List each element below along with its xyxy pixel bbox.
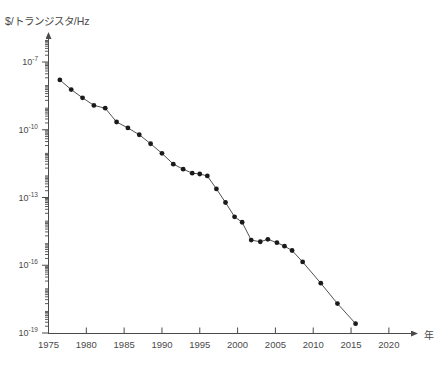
data-point-marker	[205, 174, 210, 179]
y-tick-label: 10-10	[19, 123, 39, 135]
y-axis-tick-labels: 10-710-1010-1310-1610-19	[19, 55, 39, 338]
data-point-marker	[318, 281, 323, 286]
y-tick-label: 10-19	[19, 326, 39, 338]
data-point-marker	[353, 321, 358, 326]
x-tick-label: 1980	[76, 339, 97, 350]
data-series	[57, 78, 358, 326]
data-point-marker	[190, 171, 195, 176]
data-point-marker	[80, 95, 85, 100]
series-line	[60, 80, 356, 324]
data-point-marker	[114, 120, 119, 125]
data-point-marker	[258, 239, 263, 244]
data-point-marker	[265, 237, 270, 242]
x-tick-label: 2010	[303, 339, 324, 350]
data-point-marker	[240, 220, 245, 225]
x-tick-label: 1995	[189, 339, 210, 350]
data-point-marker	[126, 126, 131, 131]
data-point-marker	[223, 200, 228, 205]
x-axis-tick-labels: 1975198019851990199520002005201020152020	[38, 339, 400, 350]
data-point-marker	[137, 132, 142, 137]
data-point-marker	[275, 240, 280, 245]
y-tick-label: 10-7	[22, 55, 38, 67]
data-point-marker	[91, 103, 96, 108]
data-point-marker	[335, 301, 340, 306]
data-point-marker	[103, 106, 108, 111]
y-tick-label: 10-16	[19, 258, 39, 270]
x-tick-label: 1975	[38, 339, 59, 350]
y-tick-label: 10-13	[19, 191, 39, 203]
x-tick-label: 1985	[114, 339, 135, 350]
data-point-marker	[171, 162, 176, 167]
x-tick-label: 2015	[340, 339, 361, 350]
data-point-marker	[197, 172, 202, 177]
chart-svg: 10-710-1010-1310-1610-19 197519801985199…	[0, 0, 444, 376]
data-point-marker	[160, 151, 165, 156]
data-point-marker	[57, 78, 62, 83]
data-point-marker	[282, 244, 287, 249]
data-point-marker	[249, 238, 254, 243]
x-tick-label: 1990	[151, 339, 172, 350]
data-point-marker	[214, 187, 219, 192]
x-axis-ticks	[49, 328, 389, 334]
data-point-marker	[232, 214, 237, 219]
data-point-marker	[181, 167, 186, 172]
y-axis-ticks	[42, 40, 49, 333]
x-tick-label: 2005	[265, 339, 286, 350]
data-point-marker	[290, 248, 295, 253]
data-point-marker	[69, 87, 74, 92]
data-point-marker	[148, 141, 153, 146]
data-point-marker	[300, 260, 305, 265]
chart-figure: $/トランジスタ/Hz 年 10-710-1010-1310-1610-19 1…	[0, 0, 444, 376]
x-tick-label: 2000	[227, 339, 248, 350]
x-tick-label: 2020	[378, 339, 399, 350]
